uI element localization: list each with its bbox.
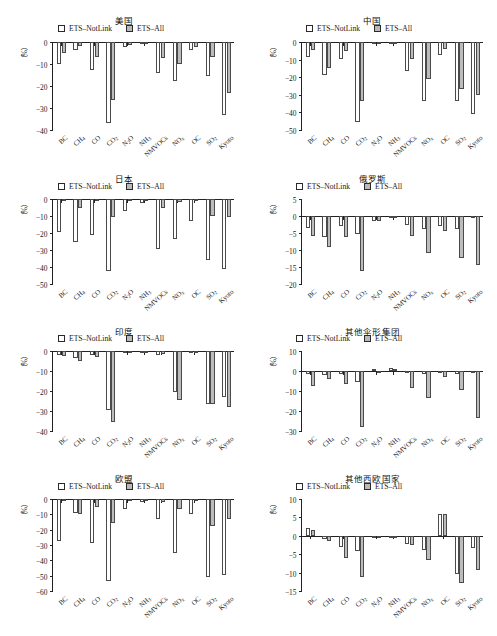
y-tick-label: −50 bbox=[36, 572, 48, 581]
legend-label: ETS–NotLink bbox=[307, 335, 350, 343]
x-tick-label: Kyoto bbox=[217, 595, 235, 612]
legend-item-notlink[interactable]: ETS–NotLink bbox=[296, 335, 350, 343]
legend-item-notlink[interactable]: ETS–NotLink bbox=[58, 25, 112, 33]
bar-notlink bbox=[322, 371, 326, 375]
legend-label: ETS–All bbox=[375, 183, 402, 191]
bar-notlink bbox=[73, 199, 77, 242]
x-tick-label: Kyoto bbox=[217, 435, 235, 452]
legend-label: ETS–All bbox=[375, 335, 402, 343]
chart-legend: ETS–NotLinkETS–All bbox=[58, 483, 164, 491]
bar-all bbox=[210, 351, 214, 404]
legend-swatch-notlink-icon bbox=[58, 483, 65, 490]
bar-all bbox=[393, 536, 397, 538]
bar-all bbox=[161, 351, 165, 354]
y-tick: −30 bbox=[50, 411, 54, 412]
bar-all bbox=[476, 536, 480, 570]
legend-label: ETS–All bbox=[137, 25, 164, 33]
bar-all bbox=[393, 369, 397, 371]
y-tick: 5 bbox=[299, 517, 303, 518]
chart-panel: 俄罗斯ETS–NotLinkETS–All（%）50−5−10−15−20BCC… bbox=[248, 170, 497, 325]
legend-item-notlink[interactable]: ETS–NotLink bbox=[58, 183, 112, 191]
legend-item-notlink[interactable]: ETS–NotLink bbox=[296, 183, 350, 191]
y-axis-label: （%） bbox=[19, 353, 30, 372]
x-tick-label: N2O bbox=[370, 435, 385, 449]
legend-item-all[interactable]: ETS–All bbox=[126, 483, 164, 491]
bar-notlink bbox=[140, 499, 144, 502]
plot-area: （%）100−10−20−30BCCH4COCO2N2ONH3NMVOCsNOx… bbox=[301, 351, 483, 431]
legend-item-all[interactable]: ETS–All bbox=[126, 335, 164, 343]
legend-item-all[interactable]: ETS–All bbox=[374, 25, 412, 33]
y-tick: −40 bbox=[50, 267, 54, 268]
bar-notlink bbox=[123, 499, 127, 509]
x-tick-label: CH4 bbox=[72, 435, 86, 449]
y-axis-label: （%） bbox=[19, 501, 30, 520]
x-tick-label: N2O bbox=[370, 134, 385, 148]
legend-item-notlink[interactable]: ETS–NotLink bbox=[58, 335, 112, 343]
bar-all bbox=[144, 42, 148, 44]
legend-item-all[interactable]: ETS–All bbox=[364, 183, 402, 191]
y-tick-label: −30 bbox=[285, 91, 297, 100]
y-tick-label: 5 bbox=[293, 196, 297, 205]
bar-all bbox=[443, 216, 447, 231]
y-tick: −10 bbox=[50, 514, 54, 515]
y-tick: −20 bbox=[299, 284, 303, 285]
y-tick: −10 bbox=[50, 371, 54, 372]
legend-swatch-notlink-icon bbox=[58, 335, 65, 342]
legend-item-all[interactable]: ETS–All bbox=[126, 25, 164, 33]
bar-all bbox=[78, 351, 82, 361]
legend-item-all[interactable]: ETS–All bbox=[364, 335, 402, 343]
bar-all bbox=[327, 216, 331, 247]
y-tick-label: −40 bbox=[36, 557, 48, 566]
x-tick-label: BC bbox=[306, 435, 318, 447]
x-tick-label: OC bbox=[439, 595, 451, 607]
legend-swatch-notlink-icon bbox=[296, 483, 303, 490]
bar-all bbox=[78, 499, 82, 514]
y-axis-label: （%） bbox=[268, 501, 279, 520]
y-tick-label: −50 bbox=[36, 281, 48, 290]
legend-label: ETS–All bbox=[385, 25, 412, 33]
x-tick-label: OC bbox=[190, 134, 202, 146]
legend-item-all[interactable]: ETS–All bbox=[126, 183, 164, 191]
bar-notlink bbox=[339, 42, 343, 59]
x-tick-label: CO2 bbox=[354, 288, 368, 302]
bar-notlink bbox=[438, 514, 442, 536]
bar-notlink bbox=[322, 536, 326, 540]
x-tick-label: CH4 bbox=[72, 595, 86, 609]
legend-item-notlink[interactable]: ETS–NotLink bbox=[58, 483, 112, 491]
plot-area: （%）0−10−20−30−40−50BCCH4COCO2N2ONH3NMVOC… bbox=[301, 42, 483, 130]
plot-area: （%）0−10−20−30−40BCCH4COCO2N2ONH3NMVOCsNO… bbox=[52, 42, 234, 130]
x-tick-label: CO bbox=[339, 288, 351, 300]
legend-item-notlink[interactable]: ETS–NotLink bbox=[296, 483, 350, 491]
bar-all bbox=[128, 42, 132, 45]
bar-notlink bbox=[455, 536, 459, 575]
x-tick-label: OC bbox=[439, 134, 451, 146]
bar-notlink bbox=[90, 499, 94, 543]
plot-area: （%）50−5−10−15−20BCCH4COCO2N2ONH3NMVOCsNO… bbox=[301, 199, 483, 284]
x-tick-label: CO bbox=[339, 134, 351, 146]
bar-notlink bbox=[372, 536, 376, 538]
x-tick-label: NOx bbox=[420, 134, 435, 148]
bar-all bbox=[393, 216, 397, 218]
y-tick-label: −5 bbox=[289, 230, 297, 239]
chart-legend: ETS–NotLinkETS–All bbox=[296, 335, 402, 343]
bar-notlink bbox=[471, 371, 475, 373]
bar-notlink bbox=[422, 216, 426, 229]
y-axis-label: （%） bbox=[268, 353, 279, 372]
legend-swatch-all-icon bbox=[126, 335, 133, 342]
bar-all bbox=[410, 536, 414, 545]
bar-notlink bbox=[471, 216, 475, 218]
x-tick-label: OC bbox=[190, 288, 202, 300]
x-tick-label: Kyoto bbox=[466, 435, 484, 452]
y-tick: −30 bbox=[50, 545, 54, 546]
bar-all bbox=[194, 42, 198, 47]
legend-item-all[interactable]: ETS–All bbox=[364, 483, 402, 491]
y-tick-label: −30 bbox=[36, 542, 48, 551]
y-tick-label: −15 bbox=[285, 264, 297, 273]
x-tick-label: CO2 bbox=[354, 435, 368, 449]
bar-notlink bbox=[90, 199, 94, 235]
y-tick-label: −40 bbox=[36, 127, 48, 136]
x-tick-label: NOx bbox=[171, 595, 186, 609]
x-tick-label: Kyoto bbox=[217, 288, 235, 305]
bar-notlink bbox=[189, 499, 193, 514]
legend-item-notlink[interactable]: ETS–NotLink bbox=[306, 25, 360, 33]
